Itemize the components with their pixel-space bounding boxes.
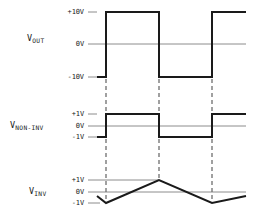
axis-label-vnoninv-plus1: +1V [52,111,84,118]
axis-label-vinv-0v: 0V [52,189,84,196]
alignment-lines [106,79,212,202]
plot-vnoninv [88,114,246,137]
axis-label-vnoninv-0v: 0V [52,123,84,130]
plot-vout [88,12,246,77]
axis-label-vout-0v: 0V [52,41,84,48]
signal-label-vnoninv-sub: NON-INV [15,124,43,131]
signal-label-vinv-sub: INV [34,190,46,197]
axis-label-vout-minus10: -10V [52,74,84,81]
axis-label-vout-plus10: +10V [52,9,84,16]
axis-label-vnoninv-minus1: -1V [52,134,84,141]
plot-vinv [88,180,246,203]
signal-label-vout: VOUT [27,34,44,43]
axis-label-vinv-plus1: +1V [52,177,84,184]
signal-label-vout-sub: OUT [32,37,44,44]
axis-label-vinv-minus1: -1V [52,200,84,207]
signal-label-vnoninv: VNON-INV [10,121,44,130]
signal-label-vinv: VINV [29,187,46,196]
